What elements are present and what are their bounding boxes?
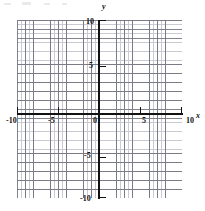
y-axis-name: y [102,3,106,11]
y-label-five: 5 [89,62,93,70]
scan-artifact [22,2,31,5]
y-label-ten: 10 [86,18,94,26]
scan-artifact [4,3,11,5]
x-tick-ten [181,107,182,114]
x-tick-neg-ten [17,107,18,114]
y-tick-five [99,66,106,67]
x-tick-neg-five [58,107,59,114]
origin-label: 0 [93,117,97,125]
x-label-neg-five: -5 [48,117,55,125]
x-axis-name: x [196,112,200,120]
x-label-neg-ten: -10 [6,117,17,125]
y-tick-neg-ten [99,197,106,198]
x-axis-line [17,113,183,115]
x-tick-five [140,107,141,114]
scan-artifact [44,3,50,5]
scan-artifact [62,3,67,5]
x-label-five: 5 [142,117,146,125]
y-tick-neg-five [99,157,106,158]
y-label-neg-ten: -10 [80,195,91,203]
x-label-ten: 10 [186,117,194,125]
y-label-neg-five: -5 [84,152,91,160]
y-tick-ten [99,20,106,21]
y-axis-line [98,20,100,199]
coordinate-grid-figure: -10 -5 0 5 10 10 5 -5 -10 y x [0,0,205,211]
